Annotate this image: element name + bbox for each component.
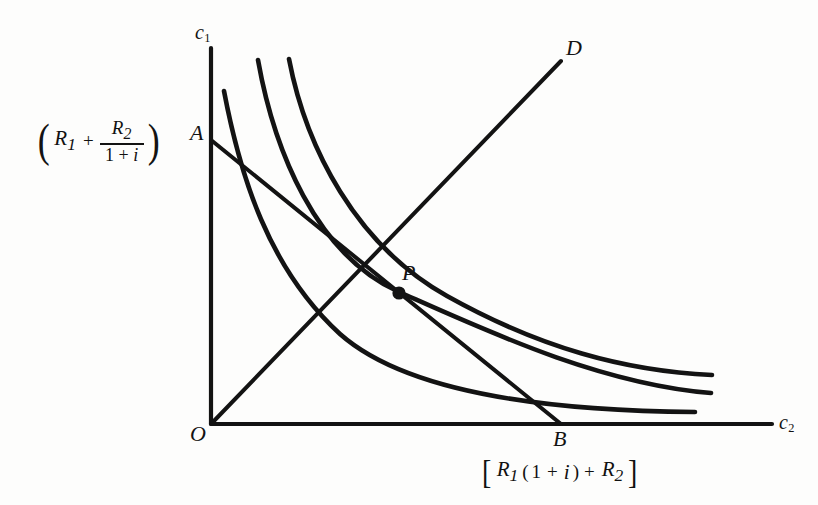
bottom-open-paren: ( (521, 461, 529, 483)
point-label-d: D (566, 37, 582, 59)
point-label-o: O (190, 423, 206, 445)
bottom-r2: R2 (599, 457, 627, 486)
indifference-curve-middle (258, 60, 711, 393)
bottom-i: i (562, 460, 572, 485)
fraction-denominator: 1 + i (103, 145, 140, 165)
left-axis-expression: ( R1 + R2 1 + i ) (36, 112, 188, 170)
fraction-numerator: R2 (110, 118, 134, 143)
indifference-curve-outer (289, 59, 712, 375)
point-p-marker (392, 286, 405, 299)
figure-canvas: c1 c2 O A B D P ( R1 + R2 1 + i ) [ (0, 0, 818, 505)
budget-line-ab (211, 140, 561, 424)
bottom-outer-plus: + (580, 461, 599, 483)
bottom-axis-expression: [ R1 ( 1 + i ) + R2 ] (452, 455, 668, 489)
expansion-ray-od (212, 61, 561, 423)
expr-plus: + (79, 130, 98, 152)
axis-label-c2: c2 (779, 412, 794, 435)
bottom-r1: R1 (494, 457, 522, 486)
expr-r1: R1 (51, 126, 79, 155)
point-label-b: B (553, 428, 566, 450)
bottom-one: 1 (530, 461, 544, 483)
bottom-inner-plus: + (543, 461, 562, 483)
bottom-close-paren: ) (572, 461, 580, 483)
axis-label-c1: c1 (195, 22, 210, 45)
point-label-p: P (402, 262, 415, 284)
point-label-a: A (190, 122, 203, 144)
expr-fraction: R2 1 + i (98, 118, 146, 165)
indifference-curve-figure (0, 0, 818, 505)
